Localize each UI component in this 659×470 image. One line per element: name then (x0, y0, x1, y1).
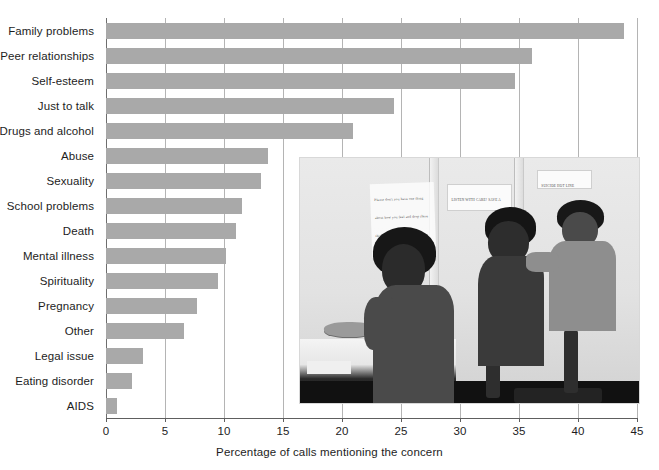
photo-person-1-arm (364, 297, 393, 350)
category-label: Legal issue (35, 350, 94, 362)
bar (106, 148, 268, 164)
x-tick-5 (165, 418, 166, 422)
x-tick-label: 40 (572, 425, 585, 437)
category-label: Spirituality (40, 275, 94, 287)
category-label: Sexuality (46, 175, 94, 187)
x-tick-label: 10 (218, 425, 231, 437)
bar (106, 23, 624, 39)
bar (106, 48, 532, 64)
category-label: Self-esteem (32, 75, 94, 87)
x-tick-label: 45 (631, 425, 644, 437)
photo-note-right: SUICIDE HOT LINE (537, 170, 591, 188)
photo-person-3-body (549, 241, 616, 331)
x-tick-label: 30 (454, 425, 467, 437)
bar (106, 373, 132, 389)
photo-person-2-body (478, 256, 544, 365)
category-label: Drugs and alcohol (0, 125, 94, 137)
bar (106, 173, 261, 189)
bar (106, 348, 143, 364)
bar (106, 323, 184, 339)
x-tick-30 (460, 418, 461, 422)
category-label: Family problems (8, 25, 94, 37)
x-tick-label: 15 (277, 425, 290, 437)
photo-person-1 (364, 227, 476, 403)
category-axis-labels: Family problemsPeer relationshipsSelf-es… (0, 18, 100, 418)
x-tick-label: 5 (162, 425, 168, 437)
bar (106, 273, 218, 289)
photo-note-right-text: SUICIDE HOT LINE (541, 184, 574, 188)
category-label: AIDS (67, 400, 94, 412)
inset-photograph: Please don't you have one thing about ho… (299, 157, 640, 404)
x-axis-title: Percentage of calls mentioning the conce… (0, 446, 659, 458)
category-label: Abuse (61, 150, 94, 162)
bar (106, 248, 226, 264)
category-label: School problems (7, 200, 94, 212)
photo-person-3-arm (526, 252, 559, 272)
photo-person-3 (544, 200, 625, 354)
x-tick-label: 20 (336, 425, 349, 437)
bar (106, 298, 197, 314)
x-tick-40 (578, 418, 579, 422)
bar (106, 73, 515, 89)
x-tick-25 (401, 418, 402, 422)
x-tick-0 (106, 418, 107, 422)
category-label: Pregnancy (38, 300, 94, 312)
category-label: Other (65, 325, 94, 337)
x-tick-35 (519, 418, 520, 422)
bar (106, 98, 394, 114)
bar (106, 198, 242, 214)
bar (106, 223, 236, 239)
x-tick-label: 25 (395, 425, 408, 437)
bar (106, 398, 117, 414)
x-tick-45 (637, 418, 638, 422)
bar-chart-figure: Family problemsPeer relationshipsSelf-es… (0, 0, 659, 470)
category-label: Death (63, 225, 94, 237)
x-axis-line (106, 418, 638, 419)
x-tick-10 (224, 418, 225, 422)
x-tick-label: 0 (103, 425, 109, 437)
category-label: Mental illness (23, 250, 94, 262)
category-label: Just to talk (38, 100, 94, 112)
photo-paper (307, 361, 351, 373)
x-tick-label: 35 (513, 425, 526, 437)
bar (106, 123, 353, 139)
x-tick-15 (283, 418, 284, 422)
category-label: Peer relationships (0, 50, 94, 62)
x-tick-20 (342, 418, 343, 422)
photo-chair-base (514, 388, 602, 403)
category-label: Eating disorder (15, 375, 94, 387)
